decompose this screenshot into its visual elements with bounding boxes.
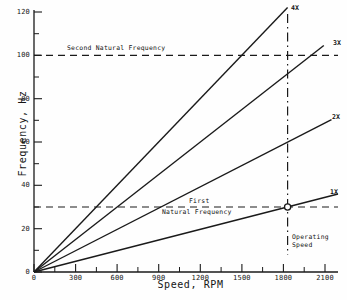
- y-major-ticks: [34, 12, 42, 272]
- y-tick-label-120: 120: [10, 8, 30, 16]
- series-label-2x: 2X: [332, 113, 340, 121]
- y-tick-label-20: 20: [10, 225, 30, 233]
- series-label-3x: 3X: [333, 39, 341, 47]
- chart-plot-area: [0, 0, 347, 300]
- operating-speed-label-line2: Speed: [292, 241, 313, 249]
- first-natural-frequency-label-line1: First: [187, 197, 212, 205]
- y-tick-label-0: 0: [10, 268, 30, 276]
- x-axis-title: Speed, RPM: [0, 279, 347, 290]
- second-natural-frequency-label: Second Natural Frequency: [65, 44, 167, 52]
- campbell-diagram: 0 20 40 60 80 100 120 0 300 600 900 1200…: [0, 0, 347, 300]
- operating-speed-label-line1: Operating: [292, 233, 329, 241]
- order-line-3x: [34, 46, 324, 273]
- first-natural-frequency-label-line2: Natural Frequency: [160, 208, 234, 216]
- series-label-4x: 4X: [291, 4, 299, 12]
- x-minor-ticks: [55, 267, 304, 272]
- order-line-2x: [34, 120, 332, 272]
- critical-intersection-marker: [285, 204, 291, 210]
- series-label-1x: 1X: [330, 188, 338, 196]
- y-tick-label-100: 100: [10, 51, 30, 59]
- y-axis-title: Frequency, Hz: [17, 64, 28, 204]
